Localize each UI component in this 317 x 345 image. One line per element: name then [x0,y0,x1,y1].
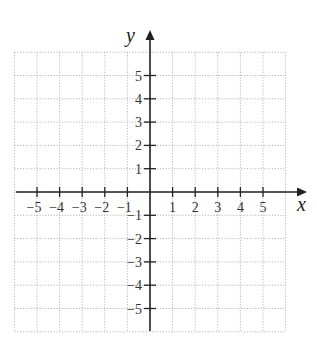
y-axis-label: y [124,24,135,47]
x-tick-label: −3 [72,200,87,215]
y-tick-label: 5 [135,69,142,84]
x-tick-label: 1 [169,200,176,215]
x-tick-label: −4 [49,200,64,215]
y-tick-label: 2 [135,138,142,153]
y-tick-label: 4 [135,92,142,107]
y-tick-label: −3 [127,255,142,270]
x-tick-label: 2 [192,200,199,215]
y-tick-label: −4 [127,278,142,293]
y-axis-arrow-icon [146,30,155,40]
y-tick-label: 1 [135,162,142,177]
y-tick-label: −1 [127,208,142,223]
x-axis-label: x [296,193,306,215]
y-tick-label: −5 [127,302,142,317]
y-tick-label: 3 [135,115,142,130]
coordinate-plane: −5−4−3−2−112345−5−4−3−2−112345 x y [0,0,317,345]
y-tick-label: −2 [127,232,142,247]
x-tick-label: 4 [237,200,244,215]
x-tick-label: 5 [260,200,267,215]
x-tick-label: 3 [214,200,221,215]
x-tick-label: −2 [94,200,109,215]
x-tick-label: −5 [27,200,42,215]
